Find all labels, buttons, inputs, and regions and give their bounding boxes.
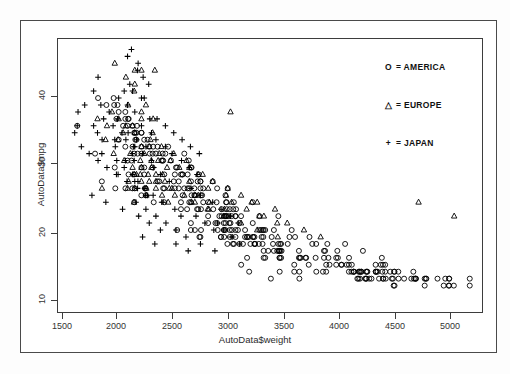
data-point [147,178,152,183]
data-point [95,74,101,80]
data-point [293,234,298,239]
data-point [334,262,339,267]
data-point [416,199,421,204]
data-point [188,221,193,226]
data-point [172,172,177,177]
data-point [98,102,104,108]
data-point [307,234,312,239]
data-point [152,241,158,247]
data-point [301,227,306,232]
data-point [320,269,325,274]
y-axis-title: AutoData$mpg [35,130,46,220]
data-point [178,200,183,205]
data-point [296,248,301,253]
data-point [188,144,194,150]
data-point [239,262,244,267]
data-point [435,276,440,281]
data-point [247,269,252,274]
data-point [101,116,107,122]
data-point [411,269,416,274]
data-point [150,116,155,121]
data-point [132,81,137,86]
data-point [123,109,128,114]
data-point [139,130,144,135]
data-point [218,234,223,239]
data-point [313,255,318,260]
data-point [111,151,116,156]
data-point [287,234,292,239]
data-point [292,262,297,267]
data-point [129,47,135,53]
data-point [271,241,276,246]
series-america [75,96,472,289]
data-point [103,137,108,142]
data-point [153,137,159,143]
data-point [396,276,401,281]
data-point [116,95,122,101]
data-point [451,213,456,218]
data-point [225,185,230,190]
data-point [138,157,143,162]
data-point [143,102,148,107]
data-point [250,221,255,226]
x-axis-tick-label-3500: 3500 [264,321,304,331]
data-point [163,220,169,226]
data-point [402,276,407,281]
data-point [116,109,121,114]
data-point [292,269,297,274]
data-point [343,241,348,246]
data-point [325,241,330,246]
plot-area [57,38,483,313]
x-axis-tick-4500 [395,313,396,319]
chart-screenshot: 40 30 20 10 AutoData$mpg 1500 2000 2500 … [0,0,510,374]
data-point [347,255,352,260]
x-axis-tick-label-4000: 4000 [319,321,359,331]
x-axis-tick-2000 [116,313,117,319]
data-point [153,185,158,190]
x-axis-tick-1500 [62,313,63,319]
data-point [135,60,141,66]
data-point [130,164,135,169]
data-point [146,81,152,87]
data-point [269,234,274,239]
data-point [93,151,98,156]
data-point [182,151,187,156]
data-point [297,269,302,274]
data-point [172,206,178,212]
data-point [121,165,127,171]
y-axis-tick-label-10: 10 [37,287,47,311]
data-point [314,269,319,274]
data-point [275,220,280,225]
data-point [112,144,118,150]
data-point [140,234,146,240]
data-point [140,74,146,80]
legend-item-europe: △ = EUROPE [383,100,442,110]
data-point [467,283,472,288]
data-point [114,158,120,164]
y-axis-tick-label-40: 40 [37,83,47,107]
data-point [103,199,109,205]
data-point [125,102,130,107]
data-point [72,130,78,136]
data-point [162,178,167,183]
data-point [243,228,248,233]
series-japan [72,47,242,254]
data-point [120,206,126,212]
data-point [182,186,187,191]
data-point [78,144,84,150]
data-point [373,262,378,267]
data-point [99,185,104,190]
data-point [178,213,184,219]
data-point [95,158,101,164]
data-point [75,109,81,115]
data-point [379,255,384,260]
data-point [212,248,218,254]
data-point [239,214,244,219]
plus-icon: + [383,138,394,148]
data-point [91,123,97,129]
legend-item-japan: + = JAPAN [383,138,434,148]
data-point [112,165,117,170]
data-point [153,171,158,176]
data-point [285,220,290,225]
data-point [104,123,109,128]
